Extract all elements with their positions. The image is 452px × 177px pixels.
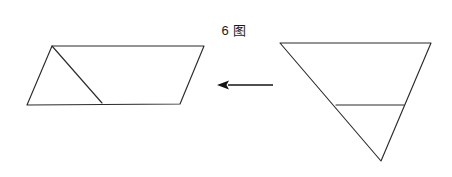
- transform-arrow: [217, 80, 273, 89]
- right-shape-group: [280, 43, 431, 161]
- inverted-triangle-fill: [280, 43, 431, 161]
- parallelogram-fill: [27, 46, 204, 105]
- left-shape-group: [27, 46, 204, 105]
- geometry-diagram: [0, 0, 452, 177]
- figure-root: 6 图: [0, 0, 452, 177]
- arrow-head-icon: [217, 80, 229, 89]
